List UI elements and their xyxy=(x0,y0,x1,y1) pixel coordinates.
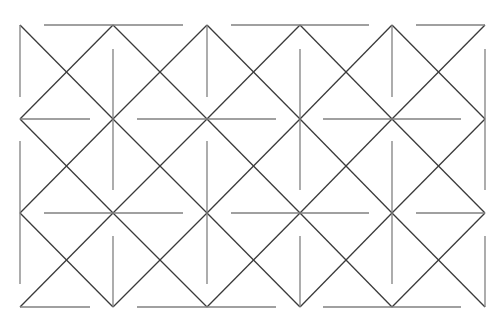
diagonal-lines xyxy=(20,25,485,307)
vertical-segments xyxy=(20,25,485,307)
lattice-diagram xyxy=(0,0,500,326)
horizontal-segments xyxy=(20,25,485,307)
